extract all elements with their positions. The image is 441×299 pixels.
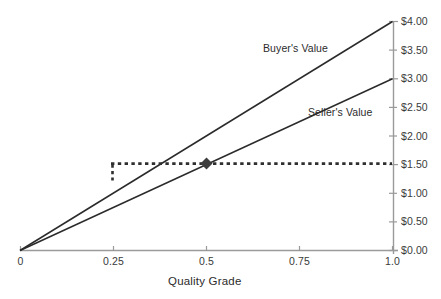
x-axis-title: Quality Grade [168,275,242,287]
x-tick-label-1: 0.25 [93,255,134,267]
series-label-buyers-value: Buyer's Value [263,42,328,54]
x-tick-label-0: 0 [0,255,41,267]
x-tick-label-4: 1.0 [372,255,413,267]
y-tick-label-6: $3.00 [401,72,428,84]
y-tick-label-2: $1.00 [401,187,428,199]
y-tick-label-8: $4.00 [401,15,428,27]
y-tick-label-1: $0.50 [401,215,428,227]
y-tick-label-4: $2.00 [401,130,428,142]
y-tick-label-5: $2.50 [401,101,428,113]
series-line-buyers-value [20,22,393,251]
chart-container: $0.00 $0.50 $1.00 $1.50 $2.00 $2.50 $3.0… [0,0,441,299]
series-label-sellers-value: Seller's Value [308,106,373,118]
equilibrium-diamond-marker [201,158,213,170]
x-tick-label-2: 0.5 [186,255,227,267]
y-tick-label-3: $1.50 [401,158,428,170]
x-tick-label-3: 0.75 [279,255,320,267]
y-tick-label-7: $3.50 [401,44,428,56]
